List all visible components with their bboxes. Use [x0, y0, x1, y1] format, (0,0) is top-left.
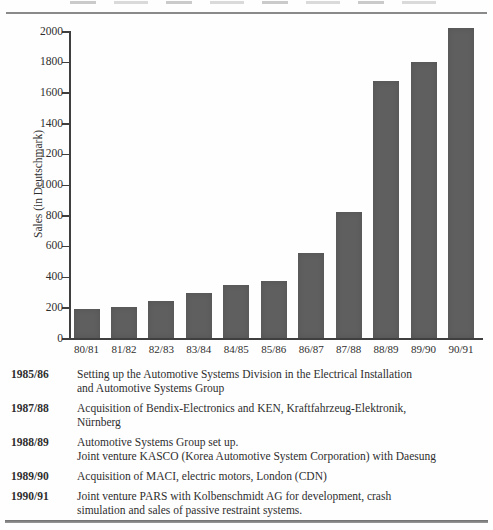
bar-88/89 — [373, 81, 399, 338]
y-tick-mark — [62, 185, 69, 187]
y-tick-mark — [62, 31, 69, 33]
y-tick-mark — [62, 154, 69, 156]
x-tick-label: 83/84 — [180, 343, 218, 355]
x-axis-line — [69, 338, 483, 340]
timeline-year: 1990/91 — [11, 489, 77, 517]
bar-81/82 — [111, 307, 137, 338]
timeline-entry: 1990/91Joint venture PARS with Kolbensch… — [11, 489, 485, 517]
timeline-entry: 1985/86Setting up the Automotive Systems… — [11, 367, 485, 395]
timeline-year: 1985/86 — [11, 367, 77, 395]
bar-84/85 — [223, 285, 249, 338]
y-tick-mark — [62, 338, 69, 340]
timeline-entry: 1988/89Automotive Systems Group set up. … — [11, 435, 485, 463]
y-tick-mark — [62, 307, 69, 309]
timeline-entry: 1987/88Acquisition of Bendix-Electronics… — [11, 401, 485, 429]
x-tick-label: 80/81 — [68, 343, 106, 355]
y-tick-mark — [62, 62, 69, 64]
bar-83/84 — [186, 293, 212, 338]
x-tick-label: 84/85 — [217, 343, 255, 355]
x-tick-label: 86/87 — [292, 343, 330, 355]
y-tick-mark — [62, 123, 69, 125]
x-tick-label: 88/89 — [367, 343, 405, 355]
y-tick-label: 1600 — [0, 86, 63, 99]
timeline-description: Setting up the Automotive Systems Divisi… — [77, 367, 485, 395]
x-tick-label: 82/83 — [142, 343, 180, 355]
x-tick-label: 89/90 — [405, 343, 443, 355]
timeline-year: 1989/90 — [11, 469, 77, 483]
timeline-annotations: 1985/86Setting up the Automotive Systems… — [11, 367, 485, 523]
y-tick-mark — [62, 215, 69, 217]
y-tick-label: 1400 — [0, 117, 63, 130]
bar-90/91 — [448, 28, 474, 338]
y-tick-label: 2000 — [0, 25, 63, 38]
bar-85/86 — [261, 281, 287, 338]
y-tick-label: 1000 — [0, 178, 63, 191]
bottom-rule — [5, 520, 488, 523]
timeline-entry: 1989/90Acquisition of MACI, electric mot… — [11, 469, 485, 483]
bar-80/81 — [74, 309, 100, 338]
y-tick-label: 1800 — [0, 55, 63, 68]
x-tick-label: 90/91 — [442, 343, 480, 355]
figure-page: Sales (in Deutschmark) 02004006008001000… — [0, 0, 493, 530]
timeline-year: 1988/89 — [11, 435, 77, 463]
y-tick-label: 1200 — [0, 147, 63, 160]
y-tick-mark — [62, 277, 69, 279]
y-tick-mark — [62, 92, 69, 94]
x-tick-label: 87/88 — [330, 343, 368, 355]
x-tick-label: 81/82 — [105, 343, 143, 355]
y-axis-line — [69, 31, 71, 339]
timeline-description: Acquisition of MACI, electric motors, Lo… — [77, 469, 485, 483]
timeline-description: Automotive Systems Group set up. Joint v… — [77, 435, 485, 463]
bar-89/90 — [411, 62, 437, 338]
y-tick-label: 400 — [0, 270, 63, 283]
bar-82/83 — [148, 301, 174, 338]
timeline-description: Acquisition of Bendix-Electronics and KE… — [77, 401, 485, 429]
y-tick-mark — [62, 246, 69, 248]
bar-86/87 — [298, 253, 324, 338]
bar-87/88 — [336, 212, 362, 338]
y-tick-label: 600 — [0, 239, 63, 252]
y-tick-label: 200 — [0, 301, 63, 314]
y-tick-label: 800 — [0, 209, 63, 222]
timeline-year: 1987/88 — [11, 401, 77, 429]
y-tick-label: 0 — [0, 332, 63, 345]
timeline-description: Joint venture PARS with Kolbenschmidt AG… — [77, 489, 485, 517]
x-tick-label: 85/86 — [255, 343, 293, 355]
